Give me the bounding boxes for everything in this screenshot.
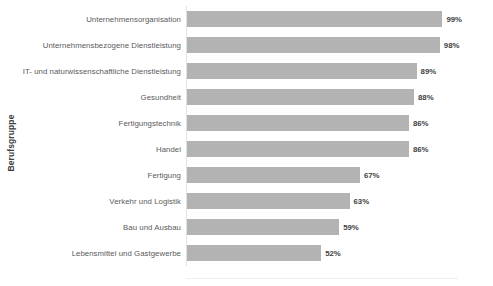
bar-value-label: 86% xyxy=(413,145,429,154)
bar-value-label: 98% xyxy=(444,41,460,50)
bar-track: 88% xyxy=(186,84,487,110)
bar-value-label: 67% xyxy=(364,171,380,180)
chart-row: Fertigung 67% xyxy=(22,162,487,188)
chart-row: Unternehmensbezogene Dienstleistung 98% xyxy=(22,32,487,58)
bar-track: 99% xyxy=(186,6,487,32)
category-label: IT- und naturwissenschaftliche Dienstlei… xyxy=(22,67,186,76)
y-axis-title: Berufsgruppe xyxy=(0,0,22,286)
bar xyxy=(187,193,350,209)
y-axis-title-label: Berufsgruppe xyxy=(6,115,16,172)
bar-track: 86% xyxy=(186,136,487,162)
bar-value-label: 63% xyxy=(354,197,370,206)
bar-value-label: 59% xyxy=(343,223,359,232)
chart-row: Bau und Ausbau 59% xyxy=(22,214,487,240)
bar xyxy=(187,115,409,131)
category-label: Unternehmensbezogene Dienstleistung xyxy=(22,41,186,50)
bar xyxy=(187,219,339,235)
bar-track: 52% xyxy=(186,240,487,266)
bar xyxy=(187,167,360,183)
bar-track: 89% xyxy=(186,58,487,84)
chart-row: Verkehr und Logistik 63% xyxy=(22,188,487,214)
category-label: Fertigungstechnik xyxy=(22,119,186,128)
bar-value-label: 99% xyxy=(446,15,462,24)
category-label: Lebensmittel und Gastgewerbe xyxy=(22,249,186,258)
chart-row: Gesundheit 88% xyxy=(22,84,487,110)
chart-row: Fertigungstechnik 86% xyxy=(22,110,487,136)
category-label: Fertigung xyxy=(22,171,186,180)
category-label: Gesundheit xyxy=(22,93,186,102)
bar xyxy=(187,89,414,105)
bar xyxy=(187,245,321,261)
bar-value-label: 86% xyxy=(413,119,429,128)
category-label: Verkehr und Logistik xyxy=(22,197,186,206)
bar-track: 59% xyxy=(186,214,487,240)
bar-chart: Berufsgruppe Unternehmensorganisation 99… xyxy=(0,0,493,286)
bar-track: 67% xyxy=(186,162,487,188)
plot-baseline xyxy=(186,278,458,279)
chart-row: Lebensmittel und Gastgewerbe 52% xyxy=(22,240,487,266)
bar xyxy=(187,141,409,157)
chart-row: Unternehmensorganisation 99% xyxy=(22,6,487,32)
bar-value-label: 52% xyxy=(325,249,341,258)
bar-track: 98% xyxy=(186,32,487,58)
bar-track: 63% xyxy=(186,188,487,214)
category-label: Handel xyxy=(22,145,186,154)
bar-track: 86% xyxy=(186,110,487,136)
chart-row: IT- und naturwissenschaftliche Dienstlei… xyxy=(22,58,487,84)
bar xyxy=(187,63,417,79)
chart-row: Handel 86% xyxy=(22,136,487,162)
bar-value-label: 88% xyxy=(418,93,434,102)
plot-area: Unternehmensorganisation 99% Unternehmen… xyxy=(22,6,487,278)
category-label: Bau und Ausbau xyxy=(22,223,186,232)
bar xyxy=(187,37,440,53)
category-label: Unternehmensorganisation xyxy=(22,15,186,24)
bar-value-label: 89% xyxy=(421,67,437,76)
bar xyxy=(187,11,442,27)
